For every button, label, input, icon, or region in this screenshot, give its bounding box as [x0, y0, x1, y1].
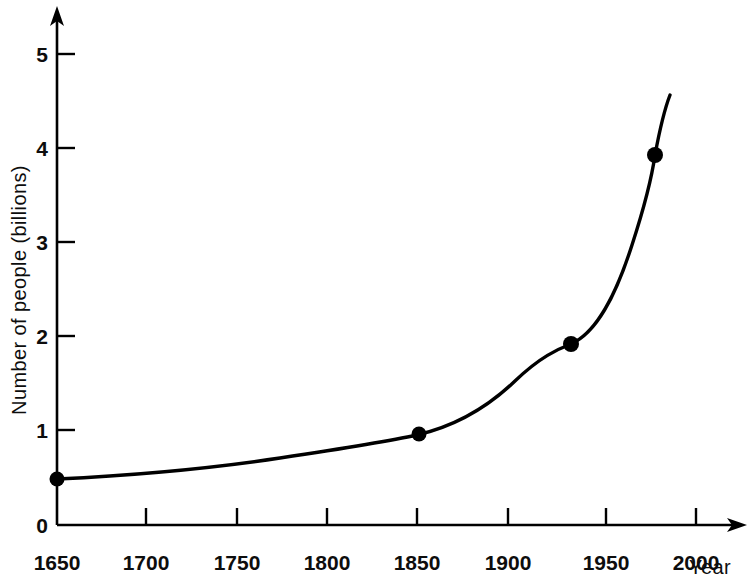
data-point-1930 — [563, 336, 579, 352]
x-tick-label-1650: 1650 — [34, 551, 81, 574]
x-axis-title: Year — [689, 556, 731, 578]
data-point-1975 — [647, 147, 663, 163]
y-axis-title: Number of people (billions) — [8, 165, 30, 415]
x-tick-label-1900: 1900 — [485, 551, 532, 574]
x-tick-label-1700: 1700 — [123, 551, 170, 574]
y-tick-label-4: 4 — [36, 137, 48, 160]
y-tick-label-3: 3 — [36, 231, 48, 254]
y-tick-label-2: 2 — [36, 325, 48, 348]
x-tick-label-1750: 1750 — [214, 551, 261, 574]
y-tick-label-0: 0 — [36, 514, 48, 537]
chart-canvas: 5 4 3 2 1 0 1650 1700 1750 1800 1850 190… — [0, 0, 751, 580]
x-tick-label-1800: 1800 — [304, 551, 351, 574]
data-point-1850 — [412, 427, 427, 442]
population-growth-chart: 5 4 3 2 1 0 1650 1700 1750 1800 1850 190… — [0, 0, 751, 580]
y-tick-label-1: 1 — [36, 419, 48, 442]
x-tick-label-1850: 1850 — [394, 551, 441, 574]
population-curve — [57, 95, 670, 479]
x-tick-label-1950: 1950 — [583, 551, 630, 574]
data-point-1650 — [50, 472, 65, 487]
y-tick-label-5: 5 — [36, 43, 48, 66]
